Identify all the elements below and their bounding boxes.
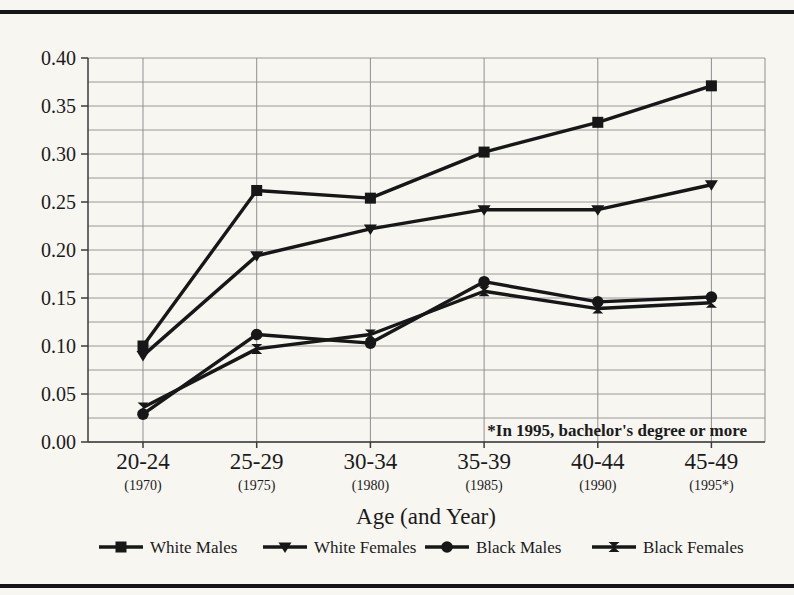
y-tick-label: 0.25 bbox=[41, 191, 76, 213]
x-tick-sublabel: (1990) bbox=[579, 478, 617, 494]
x-tick-label: 35-39 bbox=[457, 449, 511, 474]
legend-item-black-females: Black Females bbox=[592, 538, 744, 557]
top-rule bbox=[0, 10, 794, 14]
marker-square bbox=[251, 185, 262, 196]
marker-circle bbox=[441, 541, 453, 553]
legend-label: White Males bbox=[150, 538, 237, 557]
series-black-females bbox=[138, 286, 717, 412]
marker-square bbox=[592, 117, 603, 128]
x-tick-sublabel: (1970) bbox=[124, 478, 162, 494]
y-tick-label: 0.35 bbox=[41, 95, 76, 117]
x-tick-sublabel: (1980) bbox=[352, 478, 390, 494]
x-tick-label: 30-34 bbox=[344, 449, 398, 474]
scanned-page: 0.400.350.300.250.200.150.100.050.0020-2… bbox=[0, 0, 794, 595]
series-line bbox=[143, 185, 711, 356]
legend: White MalesWhite FemalesBlack MalesBlack… bbox=[99, 538, 744, 557]
marker-square bbox=[138, 341, 149, 352]
x-tick-sublabel: (1975) bbox=[238, 478, 276, 494]
series-black-males bbox=[137, 276, 717, 420]
marker-square bbox=[365, 193, 376, 204]
y-tick-label: 0.00 bbox=[41, 431, 76, 453]
legend-item-black-males: Black Males bbox=[425, 538, 561, 557]
y-tick-label: 0.10 bbox=[41, 335, 76, 357]
marker-square bbox=[706, 80, 717, 91]
y-tick-label: 0.40 bbox=[41, 47, 76, 69]
y-tick-label: 0.30 bbox=[41, 143, 76, 165]
y-tick-label: 0.15 bbox=[41, 287, 76, 309]
marker-square bbox=[479, 147, 490, 158]
marker-circle bbox=[478, 276, 490, 288]
age-year-line-chart: 0.400.350.300.250.200.150.100.050.0020-2… bbox=[0, 0, 794, 595]
series-white-females bbox=[137, 180, 718, 361]
x-tick-label: 25-29 bbox=[230, 449, 284, 474]
x-axis-title: Age (and Year) bbox=[356, 504, 496, 529]
x-tick-label: 20-24 bbox=[116, 449, 170, 474]
x-tick-label: 45-49 bbox=[685, 449, 739, 474]
marker-triangle-down bbox=[137, 351, 150, 362]
y-tick-label: 0.05 bbox=[41, 383, 76, 405]
x-tick-sublabel: (1985) bbox=[465, 478, 503, 494]
x-tick-label: 40-44 bbox=[571, 449, 625, 474]
marker-square bbox=[116, 542, 127, 553]
legend-label: Black Females bbox=[643, 538, 744, 557]
legend-item-white-males: White Males bbox=[99, 538, 237, 557]
legend-label: Black Males bbox=[476, 538, 561, 557]
bottom-rule bbox=[0, 584, 794, 588]
legend-label: White Females bbox=[314, 538, 416, 557]
x-tick-sublabel: (1995*) bbox=[689, 478, 734, 494]
y-tick-label: 0.20 bbox=[41, 239, 76, 261]
footnote-annotation: *In 1995, bachelor's degree or more bbox=[487, 421, 747, 440]
marker-circle bbox=[251, 329, 263, 341]
series-line bbox=[143, 291, 711, 407]
legend-item-white-females: White Females bbox=[263, 538, 416, 557]
